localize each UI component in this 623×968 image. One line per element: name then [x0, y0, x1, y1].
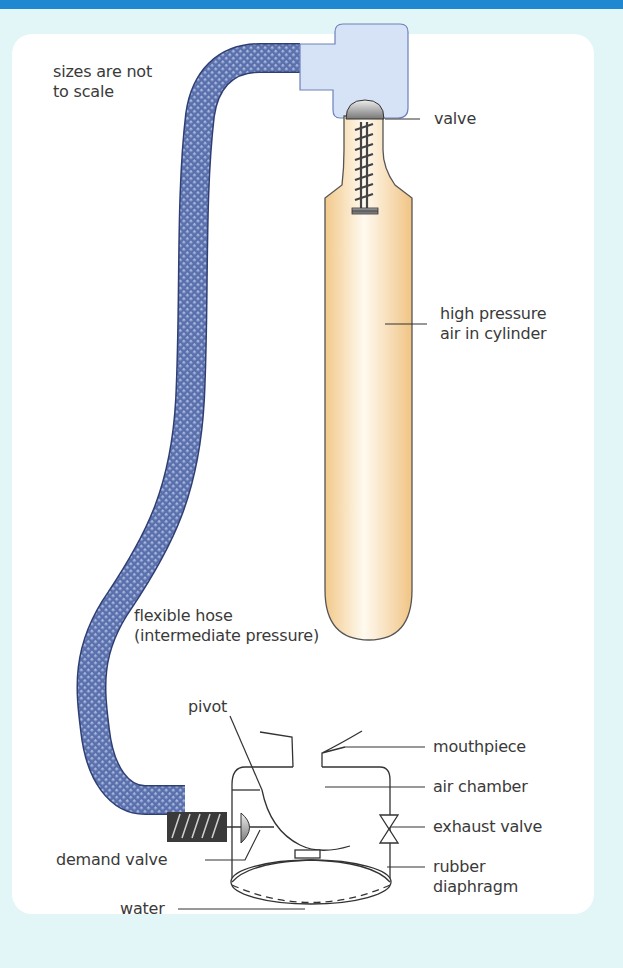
scale-note-line-2: to scale: [53, 82, 152, 102]
label-diaphragm-line-2: diaphragm: [433, 877, 518, 897]
label-hose-line-2: (intermediate pressure): [134, 626, 319, 646]
label-diaphragm: rubber diaphragm: [433, 857, 518, 897]
flexible-hose: [91, 58, 300, 800]
label-water: water: [120, 899, 165, 919]
label-pivot: pivot: [188, 697, 227, 717]
label-cylinder: high pressure air in cylinder: [440, 304, 546, 344]
demand-valve: [167, 812, 274, 843]
label-exhaust-valve: exhaust valve: [433, 817, 542, 837]
scale-note-line-1: sizes are not: [53, 62, 152, 82]
label-hose: flexible hose (intermediate pressure): [134, 606, 319, 646]
label-hose-line-1: flexible hose: [134, 606, 319, 626]
second-stage-regulator: [231, 731, 398, 904]
scale-note: sizes are not to scale: [53, 62, 152, 102]
label-diaphragm-line-1: rubber: [433, 857, 518, 877]
label-cylinder-line-1: high pressure: [440, 304, 546, 324]
label-cylinder-line-2: air in cylinder: [440, 324, 546, 344]
label-demand-valve: demand valve: [56, 850, 167, 870]
label-mouthpiece: mouthpiece: [433, 737, 526, 757]
label-air-chamber: air chamber: [433, 777, 528, 797]
label-valve: valve: [434, 109, 476, 129]
